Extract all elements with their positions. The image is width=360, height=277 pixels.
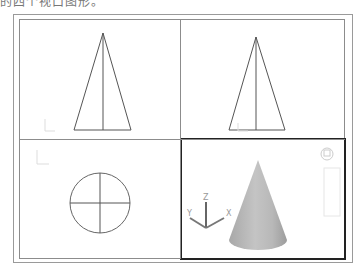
viewport-sw-isometric[interactable]: Z Y X (180, 138, 346, 260)
viewport-left[interactable] (181, 19, 345, 139)
ucs-icon (45, 119, 55, 131)
left-triangle-drawing (181, 19, 345, 139)
ucs-icon: Z Y X (186, 193, 232, 228)
navigation-bar (324, 168, 340, 216)
viewport-divider-horizontal (19, 139, 345, 140)
viewport-front[interactable] (19, 19, 180, 139)
shaded-cone-drawing: Z Y X (182, 140, 344, 258)
ucs-y-label: Y (186, 209, 192, 218)
caption-text: 的四个视口图形。 (0, 0, 104, 9)
viewport-top[interactable] (19, 140, 180, 259)
ucs-icon (37, 150, 49, 164)
ucs-x-label: X (226, 209, 232, 218)
top-circle-drawing (19, 140, 180, 259)
ucs-z-label: Z (203, 193, 209, 202)
viewcube-icon (321, 148, 333, 160)
front-triangle-drawing (19, 19, 180, 139)
